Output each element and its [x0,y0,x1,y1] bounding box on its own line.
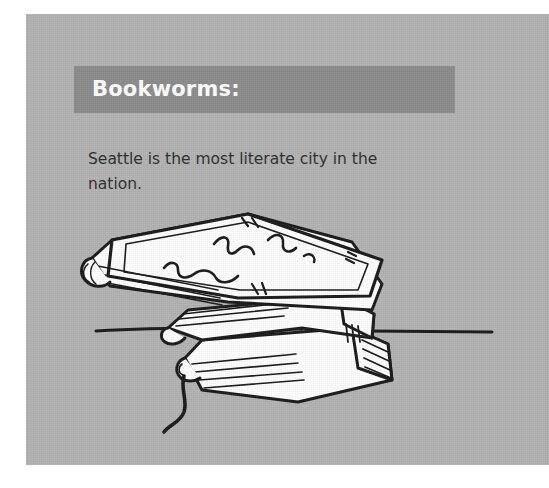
fact-card: Bookworms: Seattle is the most literate … [26,14,549,465]
stack-of-books-sketch [52,28,549,479]
table-line-right [366,331,492,332]
stack-of-books-svg [52,28,549,479]
bookmark-ribbon [164,376,185,432]
